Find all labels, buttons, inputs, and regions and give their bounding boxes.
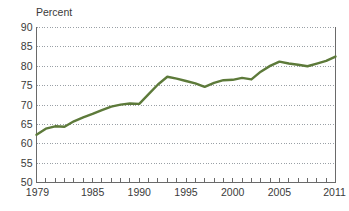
chart-ytick-labels: 505560657075808590 xyxy=(21,21,33,188)
x-tick-label-2005: 2005 xyxy=(268,186,292,198)
y-tick-label-85: 85 xyxy=(21,40,33,52)
line-chart: 505560657075808590 197919851990199520002… xyxy=(0,0,349,211)
chart-data-line xyxy=(37,57,336,135)
y-tick-label-70: 70 xyxy=(21,99,33,111)
chart-page: 505560657075808590 197919851990199520002… xyxy=(0,0,349,211)
chart-xticks xyxy=(37,178,336,183)
y-axis-unit-label: Percent xyxy=(36,6,72,18)
y-tick-label-80: 80 xyxy=(21,60,33,72)
x-tick-label-1995: 1995 xyxy=(174,186,198,198)
chart-gridlines xyxy=(37,28,336,164)
x-tick-label-2011: 2011 xyxy=(323,186,346,198)
chart-xtick-labels: 1979198519901995200020052011 xyxy=(26,186,346,198)
y-tick-label-55: 55 xyxy=(21,157,33,169)
x-tick-label-1985: 1985 xyxy=(81,186,105,198)
y-tick-label-60: 60 xyxy=(21,137,33,149)
x-tick-label-2000: 2000 xyxy=(221,186,245,198)
y-tick-label-90: 90 xyxy=(21,21,33,33)
y-tick-label-75: 75 xyxy=(21,79,33,91)
x-tick-label-1990: 1990 xyxy=(128,186,152,198)
y-tick-label-65: 65 xyxy=(21,118,33,130)
x-tick-label-1979: 1979 xyxy=(26,186,50,198)
series-line-percent xyxy=(37,57,336,135)
